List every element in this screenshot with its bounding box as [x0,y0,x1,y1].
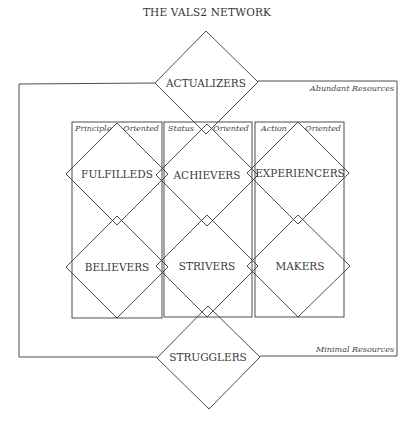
status-label: Status [168,124,194,133]
minimal-resources-label: Minimal Resources [315,345,394,354]
action-oriented-label: Oriented [305,124,341,133]
actualizers-label: ACTUALIZERS [165,77,246,89]
vals2-network-diagram: THE VALS2 NETWORK Abundant Resources Min… [0,0,413,427]
believers-label: BELIEVERS [85,261,150,273]
abundant-resources-label: Abundant Resources [309,84,394,93]
principle-oriented-label: Oriented [123,124,159,133]
achievers-label: ACHIEVERS [173,169,241,181]
strivers-label: STRIVERS [179,260,236,272]
strugglers-label: STRUGGLERS [169,351,246,363]
principle-column [72,122,162,318]
makers-label: MAKERS [276,260,325,272]
action-label: Action [260,124,287,133]
diagram-title: THE VALS2 NETWORK [143,6,271,18]
experiencers-label: EXPERIENCERS [255,167,345,179]
fulfilleds-label: FULFILLEDS [81,168,153,180]
principle-label: Principle [74,124,112,133]
status-oriented-label: Oriented [213,124,249,133]
